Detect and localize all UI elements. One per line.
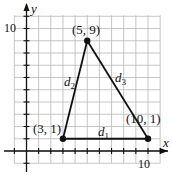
y-tick-label-10: 10 (4, 21, 16, 35)
point-dot (84, 38, 90, 44)
point-dot (60, 136, 66, 142)
x-axis-label: x (162, 135, 169, 150)
point-label-10-1: (10, 1) (126, 111, 161, 126)
segment-label-d3: d3 (115, 70, 127, 87)
labels: y x 10 10 (5, 9) (3, 1) (10, 1) d1 d2 d3 (4, 1, 169, 171)
grid-lines (14, 15, 160, 163)
x-tick-label-10: 10 (138, 157, 150, 171)
y-axis-label: y (29, 1, 37, 16)
point-label-5-9: (5, 9) (72, 22, 100, 37)
coordinate-plane: y x 10 10 (5, 9) (3, 1) (10, 1) d1 d2 d3 (0, 0, 172, 175)
segment-label-d2: d2 (64, 74, 75, 91)
point-dot (145, 136, 151, 142)
point-label-3-1: (3, 1) (33, 121, 61, 136)
y-axis-arrow-icon (24, 3, 30, 11)
